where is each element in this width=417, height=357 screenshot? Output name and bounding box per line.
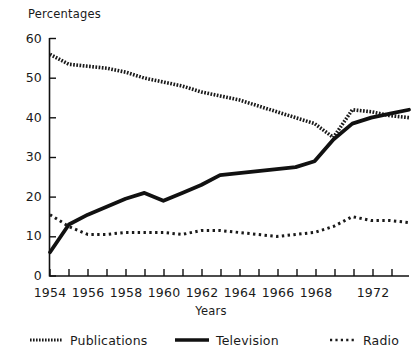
series-line-radio xyxy=(50,215,409,237)
y-axis-ticks xyxy=(50,39,57,277)
x-axis-ticks xyxy=(50,269,392,276)
line-chart-svg: Percentages 60 50 40 30 20 10 0 xyxy=(0,0,417,357)
y-axis-tick-labels: 60 50 40 30 20 10 0 xyxy=(26,31,42,283)
x-tick-label-1954: 1954 xyxy=(34,285,67,300)
x-tick-label-1966: 1966 xyxy=(262,285,295,300)
x-axis-title: Years xyxy=(194,304,226,318)
series-group xyxy=(50,54,409,252)
x-axis-tick-labels: 1954 1956 1958 1960 1962 1964 1966 1968 … xyxy=(34,285,390,300)
y-tick-label-20: 20 xyxy=(26,189,42,204)
x-tick-label-1956: 1956 xyxy=(72,285,105,300)
y-tick-label-60: 60 xyxy=(26,31,42,46)
legend-label-television: Television xyxy=(215,333,279,348)
chart-legend: Publications Television Radio xyxy=(30,333,399,348)
y-axis-title: Percentages xyxy=(28,7,101,21)
y-tick-label-10: 10 xyxy=(26,228,42,243)
x-tick-label-1960: 1960 xyxy=(148,285,181,300)
x-tick-label-1968: 1968 xyxy=(300,285,333,300)
series-line-television xyxy=(50,110,409,253)
x-tick-label-1972: 1972 xyxy=(357,285,390,300)
x-tick-label-1958: 1958 xyxy=(110,285,143,300)
series-line-publications xyxy=(50,54,409,137)
legend-label-publications: Publications xyxy=(70,333,148,348)
chart-figure: Percentages 60 50 40 30 20 10 0 xyxy=(0,0,417,357)
legend-label-radio: Radio xyxy=(363,333,399,348)
x-tick-label-1964: 1964 xyxy=(224,285,257,300)
y-tick-label-30: 30 xyxy=(26,149,42,164)
y-tick-label-40: 40 xyxy=(26,110,42,125)
y-tick-label-50: 50 xyxy=(26,70,42,85)
y-tick-label-0: 0 xyxy=(34,268,42,283)
x-tick-label-1962: 1962 xyxy=(186,285,219,300)
